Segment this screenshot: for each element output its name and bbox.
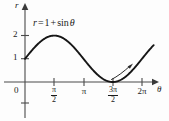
plot-canvas bbox=[0, 0, 169, 121]
x-tick-label-pi: π bbox=[82, 87, 87, 96]
figure-cardioid-cartesian-plot: r θ r=1+sin θ 2 1 0 π 2 π 3π 2 2π bbox=[0, 0, 169, 121]
fraction-denominator: 2 bbox=[51, 96, 57, 105]
fraction-pi-over-2: π 2 bbox=[51, 86, 57, 104]
equation-function: sin bbox=[57, 17, 69, 28]
x-axis-label: θ bbox=[157, 85, 161, 94]
x-tick-label-2pi: 2π bbox=[137, 87, 146, 96]
curve-rising-branch bbox=[113, 45, 154, 82]
origin-label: 0 bbox=[14, 86, 19, 95]
fraction-numerator: 3π bbox=[108, 86, 118, 95]
fraction-3pi-over-2: 3π 2 bbox=[108, 86, 118, 104]
equation-equals: = bbox=[37, 17, 45, 28]
y-tick-label-2: 2 bbox=[13, 30, 18, 39]
fraction-denominator: 2 bbox=[108, 96, 118, 105]
equation-constant: 1 bbox=[45, 17, 50, 28]
direction-of-travel-arrow bbox=[112, 66, 131, 80]
y-tick-label-1: 1 bbox=[13, 53, 18, 62]
fraction-numerator: π bbox=[51, 86, 57, 95]
y-axis-label: r bbox=[15, 1, 19, 10]
x-tick-label-pi-over-2: π 2 bbox=[51, 86, 57, 104]
y-axis-arrowhead bbox=[22, 3, 29, 10]
curve-descending-branch bbox=[25, 36, 113, 82]
equation-annotation: r=1+sin θ bbox=[33, 18, 75, 28]
equation-variable: θ bbox=[70, 17, 75, 28]
x-tick-label-3pi-over-2: 3π 2 bbox=[108, 86, 118, 104]
